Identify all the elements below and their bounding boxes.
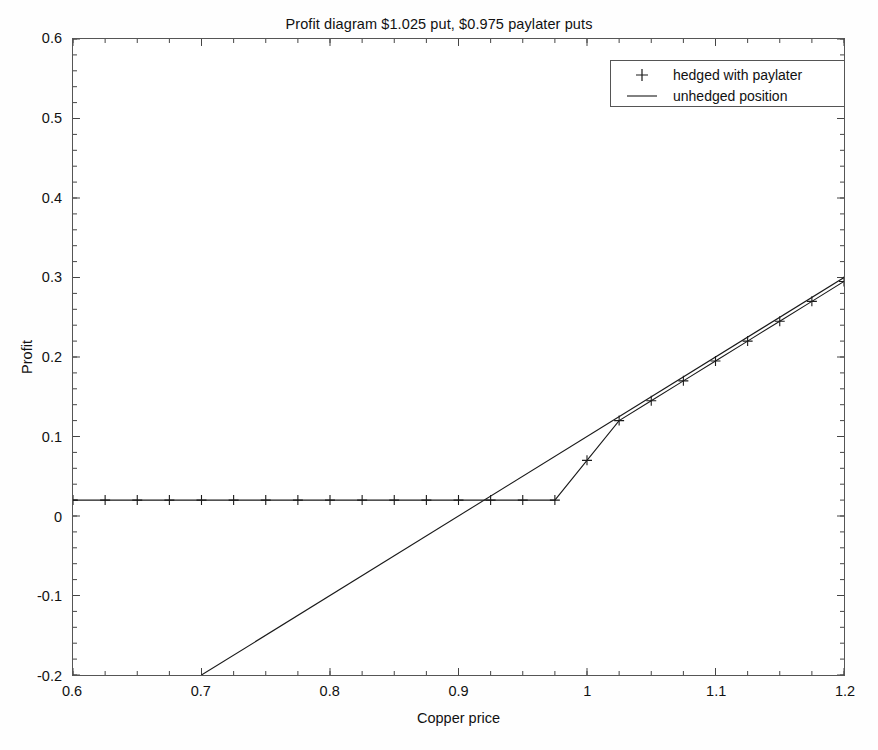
data-point-marker — [325, 495, 335, 505]
series-hedged — [73, 276, 844, 505]
x-tick-label: 0.8 — [320, 683, 340, 699]
data-point-marker — [100, 495, 110, 505]
data-point-marker — [518, 495, 528, 505]
series-line — [73, 281, 844, 500]
y-tick-label: -0.2 — [0, 668, 62, 684]
data-point-marker — [197, 495, 207, 505]
plus-marker-icon — [611, 64, 673, 85]
legend-label-unhedged: unhedged position — [673, 88, 787, 104]
y-tick-label: 0.5 — [0, 110, 62, 126]
x-tick-label: 0.6 — [62, 683, 82, 699]
data-point-marker — [229, 495, 239, 505]
x-tick-label: 0.7 — [191, 683, 211, 699]
data-point-marker — [164, 495, 174, 505]
plot-area — [72, 38, 845, 676]
y-tick-label: 0.1 — [0, 429, 62, 445]
x-axis-tick-labels: 0.60.70.80.911.11.2 — [0, 683, 878, 707]
data-point-marker — [132, 495, 142, 505]
y-tick-label: 0.4 — [0, 190, 62, 206]
data-point-marker — [73, 495, 78, 505]
y-tick-label: -0.1 — [0, 588, 62, 604]
y-axis-label: Profit — [19, 340, 35, 374]
data-point-marker — [389, 495, 399, 505]
plot-svg — [73, 39, 844, 675]
legend-item-unhedged: unhedged position — [611, 85, 844, 106]
x-tick-label: 1 — [583, 683, 591, 699]
data-point-marker — [454, 495, 464, 505]
figure-canvas: Profit diagram $1.025 put, $0.975 paylat… — [0, 0, 878, 750]
series-markers — [73, 276, 844, 505]
legend-label-hedged: hedged with paylater — [673, 67, 802, 83]
x-tick-label: 1.1 — [706, 683, 726, 699]
line-segment-icon — [611, 85, 673, 106]
x-axis-label: Copper price — [72, 710, 845, 726]
axis-ticks — [73, 39, 844, 675]
chart-title: Profit diagram $1.025 put, $0.975 paylat… — [0, 16, 878, 32]
data-series — [73, 276, 844, 675]
data-point-marker — [357, 495, 367, 505]
y-tick-label: 0.3 — [0, 269, 62, 285]
series-line — [201, 278, 844, 676]
series-unhedged — [201, 278, 844, 676]
y-tick-label: 0 — [0, 509, 62, 525]
data-point-marker — [293, 495, 303, 505]
legend: hedged with paylater unhedged position — [610, 60, 845, 107]
legend-item-hedged: hedged with paylater — [611, 64, 844, 85]
x-tick-label: 0.9 — [448, 683, 468, 699]
data-point-marker — [261, 495, 271, 505]
data-point-marker — [421, 495, 431, 505]
x-tick-label: 1.2 — [835, 683, 855, 699]
y-tick-label: 0.6 — [0, 30, 62, 46]
